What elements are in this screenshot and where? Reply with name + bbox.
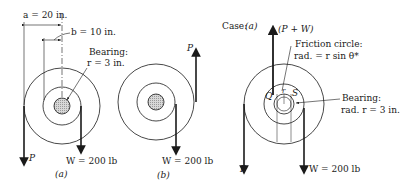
friction-circle-title: Friction circle:	[295, 39, 363, 49]
bearing-radius-c: rad. r = 3 in.	[341, 105, 400, 115]
force-p-label-a: P	[28, 153, 36, 163]
bearing-hub-b	[148, 94, 164, 110]
force-w-label-a: W = 200 lb	[66, 156, 117, 166]
caption-a: (a)	[55, 169, 68, 179]
bearing-title-a: Bearing:	[89, 47, 128, 57]
case-value: (a)	[245, 21, 258, 31]
dim-a-label: a = 20 in.	[23, 10, 68, 20]
friction-circle-radius: rad. = r sin θ*	[294, 51, 359, 61]
case-label: Case:	[222, 21, 247, 31]
bearing-leader-a	[67, 68, 87, 100]
force-p-label-c: P	[239, 164, 247, 174]
bearing-hub-a	[54, 98, 70, 114]
pulley-diagram: a = 20 in. b = 10 in. Bearing: r = 3 in.…	[0, 0, 411, 189]
bearing-leader-c	[296, 99, 340, 103]
figure-c: Case: (a) (P + W) Friction circle: rad. …	[222, 21, 400, 174]
force-w-label-b: W = 200 lb	[162, 156, 213, 166]
resultant-label: (P + W)	[278, 24, 314, 34]
figure-a: a = 20 in. b = 10 in. Bearing: r = 3 in.…	[23, 10, 128, 179]
bearing-radius-a: r = 3 in.	[87, 58, 125, 68]
point-q: Q	[265, 91, 273, 101]
bearing-title-c: Bearing:	[342, 93, 381, 103]
force-p-label-b: P	[186, 43, 194, 53]
point-s: S	[292, 88, 298, 98]
dim-b-label: b = 10 in.	[71, 27, 116, 37]
force-w-label-c: W = 200 lb	[309, 164, 360, 174]
figure-b: P W = 200 lb (b)	[118, 43, 213, 180]
caption-b: (b)	[157, 170, 170, 180]
